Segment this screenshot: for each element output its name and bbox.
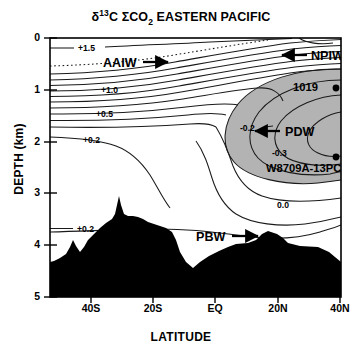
contour-label-m0p3: -0.3 bbox=[272, 148, 287, 158]
label-pbw: PBW bbox=[196, 230, 225, 244]
contour-plot-svg: +1.5 +1.0 +0.5 +0.2 +0.2 0.0 -0.2 -0.3 A… bbox=[0, 0, 362, 359]
contour-label-m0p2: -0.2 bbox=[240, 123, 255, 133]
contour-label-0p2-upper: +0.2 bbox=[83, 135, 100, 145]
core-marker-1019 bbox=[333, 85, 340, 92]
contour-label-0p2-lower: +0.2 bbox=[77, 224, 94, 234]
contour-label-1p5: +1.5 bbox=[78, 43, 95, 53]
core-label-w8709a: W8709A-13PC bbox=[266, 162, 341, 174]
label-pdw: PDW bbox=[285, 125, 314, 139]
contour-label-0p5: +0.5 bbox=[96, 109, 113, 119]
contour-label-1p0: +1.0 bbox=[101, 85, 118, 95]
core-label-1019: 1019 bbox=[293, 81, 318, 93]
label-aaiw: AAIW bbox=[103, 56, 137, 70]
contour-label-0p0: 0.0 bbox=[277, 200, 289, 210]
core-marker-w8709a bbox=[333, 154, 340, 161]
label-npiw: NPIW bbox=[311, 49, 344, 63]
figure-root: δ13C ΣCO2 EASTERN PACIFIC DEPTH (km) LAT… bbox=[0, 0, 362, 359]
